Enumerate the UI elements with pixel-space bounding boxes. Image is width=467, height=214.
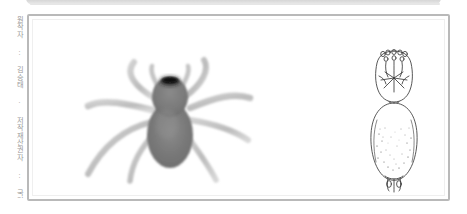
top-band-shadow — [30, 3, 440, 5]
figure-panel: ♀ — [27, 14, 450, 201]
spider-dorsal-photo — [68, 40, 273, 190]
figure-panel-inner: ♀ — [32, 19, 445, 196]
spider-body-line-drawing — [355, 42, 433, 194]
figure-credit-text: 원작자 : 김승태 · 저작재산권자 : 국립생물자원관 — [13, 16, 26, 198]
